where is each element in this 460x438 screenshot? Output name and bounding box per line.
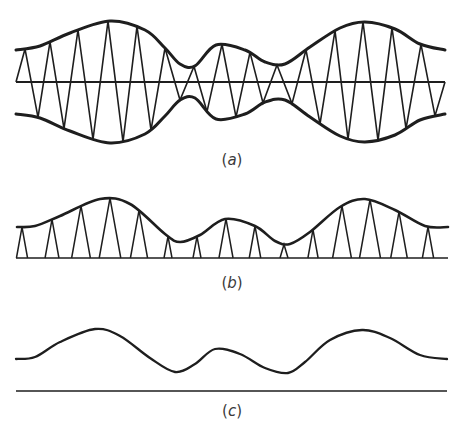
panel-b-rectified-signal bbox=[16, 198, 448, 258]
rectified-pulse bbox=[360, 200, 381, 258]
panel-b-label: (b) bbox=[221, 274, 242, 292]
panel-a-modulated-carrier bbox=[16, 21, 445, 143]
rectified-pulse bbox=[99, 198, 121, 258]
rectified-pulse bbox=[391, 212, 408, 258]
panel-c-envelope bbox=[16, 329, 447, 391]
envelope-curve bbox=[17, 198, 448, 244]
rectified-pulse bbox=[333, 206, 352, 258]
paren-close: ) bbox=[237, 151, 243, 169]
rectified-pulse bbox=[249, 226, 261, 258]
panel-a-label: (a) bbox=[222, 151, 243, 169]
recovered-envelope-curve bbox=[16, 329, 447, 373]
paren-close: ) bbox=[236, 402, 242, 420]
panel-c-label: (c) bbox=[222, 402, 242, 420]
rectified-pulse bbox=[280, 244, 288, 258]
label-letter: b bbox=[227, 274, 237, 292]
rectified-pulse bbox=[219, 219, 233, 258]
rectified-pulse bbox=[72, 206, 91, 258]
rectified-pulse bbox=[193, 237, 201, 258]
label-letter: c bbox=[228, 402, 236, 420]
rectified-pulse bbox=[45, 219, 59, 258]
rectified-pulse bbox=[130, 210, 147, 258]
rectified-pulse bbox=[422, 227, 433, 258]
label-letter: a bbox=[227, 151, 236, 169]
modulation-diagram bbox=[0, 0, 460, 438]
paren-close: ) bbox=[237, 274, 243, 292]
rectified-pulse bbox=[16, 227, 27, 258]
